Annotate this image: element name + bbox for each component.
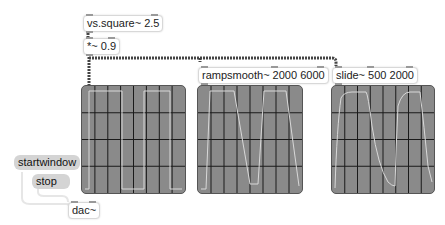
object-label: slide~ 500 2000 <box>336 69 414 81</box>
dac-object[interactable]: dac~ <box>68 202 100 219</box>
outlet[interactable] <box>86 31 93 33</box>
slide-object[interactable]: slide~ 500 2000 <box>332 67 418 84</box>
inlet[interactable] <box>406 66 413 68</box>
inlet[interactable] <box>271 66 278 68</box>
inlet[interactable] <box>151 14 158 16</box>
rampsmooth-object[interactable]: rampsmooth~ 2000 6000 <box>198 67 329 84</box>
stop-message[interactable]: stop <box>32 174 70 189</box>
inlet[interactable] <box>86 37 93 39</box>
object-label: dac~ <box>72 204 96 216</box>
message-cord[interactable] <box>38 188 68 202</box>
object-label: vs.square~ 2.5 <box>87 17 159 29</box>
inlet[interactable] <box>86 14 93 16</box>
scope-rampsmooth[interactable] <box>197 85 303 194</box>
outlet[interactable] <box>86 54 93 56</box>
inlet[interactable] <box>317 66 324 68</box>
inlet[interactable] <box>89 201 96 203</box>
scope-display <box>198 86 302 193</box>
signal-cord[interactable] <box>200 58 336 66</box>
object-label: rampsmooth~ 2000 6000 <box>202 69 325 81</box>
scope-raw[interactable] <box>81 85 186 194</box>
multiply-signal-object[interactable]: *~ 0.9 <box>83 38 120 55</box>
inlet[interactable] <box>335 66 342 68</box>
startwindow-message[interactable]: startwindow <box>14 155 80 170</box>
scope-display <box>82 86 185 193</box>
inlet[interactable] <box>367 66 374 68</box>
object-label: *~ 0.9 <box>87 40 116 52</box>
inlet[interactable] <box>201 66 208 68</box>
message-label: stop <box>36 175 57 187</box>
message-label: startwindow <box>18 156 76 168</box>
inlet[interactable] <box>71 201 78 203</box>
vs-square-object[interactable]: vs.square~ 2.5 <box>83 15 163 32</box>
signal-cord[interactable] <box>89 58 200 62</box>
inlet[interactable] <box>108 37 115 39</box>
scope-display <box>332 86 434 193</box>
scope-slide[interactable] <box>331 85 435 194</box>
